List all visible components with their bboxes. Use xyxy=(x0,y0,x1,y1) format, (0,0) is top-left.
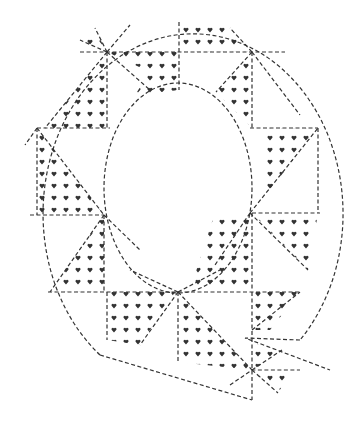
heart-patches xyxy=(37,22,318,393)
quilt-letter-q xyxy=(0,0,349,427)
